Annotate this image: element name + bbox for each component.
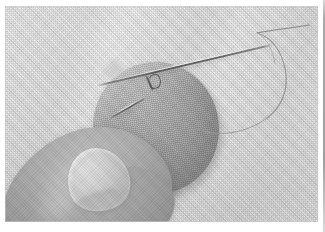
printed-page (0, 0, 325, 232)
photograph-content (5, 6, 318, 222)
thread-right-loop (257, 33, 286, 118)
thread-lower-sweep (155, 86, 267, 133)
thread-secondary-strand (259, 34, 275, 64)
thread (5, 6, 318, 222)
photograph (5, 6, 318, 222)
thread-upper-tail (257, 25, 309, 33)
